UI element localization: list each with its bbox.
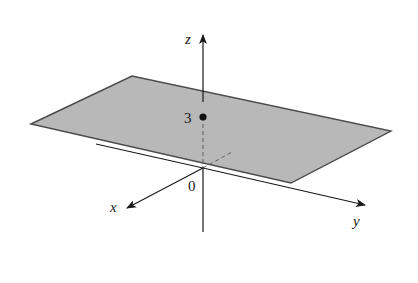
point-z-3 xyxy=(199,113,206,120)
plane-z-equals-3 xyxy=(31,76,391,183)
y-axis-label: y xyxy=(351,213,360,229)
point-label-3: 3 xyxy=(184,110,192,126)
plane-diagram: z 3 0 x y xyxy=(0,0,418,283)
z-axis-label: z xyxy=(184,31,191,47)
origin-label: 0 xyxy=(188,178,196,194)
x-axis-label: x xyxy=(109,199,117,215)
